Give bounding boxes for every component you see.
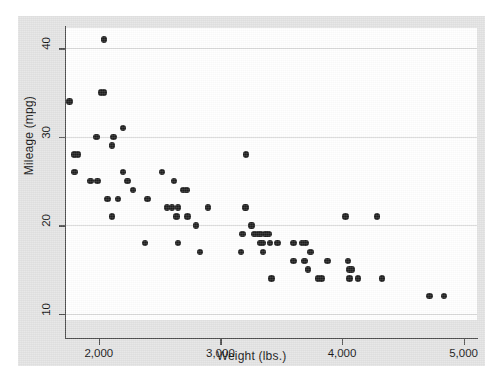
data-point [238, 249, 244, 255]
data-point [175, 204, 181, 210]
data-point [104, 196, 110, 202]
data-point [130, 187, 136, 193]
x-axis-line [65, 338, 478, 339]
data-point [274, 240, 280, 246]
data-point [290, 258, 296, 264]
data-point [87, 178, 93, 184]
data-point [142, 240, 148, 246]
data-point [243, 151, 249, 157]
data-point [260, 240, 266, 246]
data-point [193, 222, 199, 228]
data-point [267, 240, 273, 246]
data-point [125, 178, 131, 184]
data-point [345, 258, 351, 264]
data-point [175, 240, 181, 246]
data-point [249, 222, 255, 228]
data-point [307, 249, 313, 255]
data-point [101, 36, 107, 42]
data-point [71, 169, 77, 175]
data-point [171, 178, 177, 184]
data-point [379, 275, 385, 281]
gridline-y [66, 314, 477, 315]
y-axis-tick [59, 225, 66, 226]
data-point [426, 293, 432, 299]
y-axis-tick-label: 20 [40, 214, 52, 227]
data-point [120, 169, 126, 175]
data-point [342, 213, 348, 219]
x-axis-tick-label: 3,000 [190, 347, 250, 359]
data-point [75, 151, 81, 157]
y-axis-title: Mileage (mpg) [22, 96, 36, 175]
x-axis-tick [220, 338, 221, 345]
data-point [159, 169, 165, 175]
x-axis-tick [99, 338, 100, 345]
y-axis-tick-label: 10 [40, 303, 52, 316]
data-point [260, 249, 266, 255]
y-axis-tick [59, 48, 66, 49]
data-point [183, 187, 189, 193]
data-point [355, 275, 361, 281]
plot-region [66, 28, 477, 320]
gridline-y [66, 48, 477, 49]
screenshot-root: Mileage (mpg) Weight (lbs.) 403020102,00… [0, 0, 503, 386]
x-axis-tick-label: 2,000 [69, 347, 129, 359]
data-point [349, 266, 355, 272]
x-axis-tick-label: 4,000 [312, 347, 372, 359]
x-axis-tick [464, 338, 465, 345]
data-point [257, 231, 263, 237]
data-point [374, 213, 380, 219]
gridline-y [66, 225, 477, 226]
y-axis-tick [59, 137, 66, 138]
data-point [305, 266, 311, 272]
data-point [115, 196, 121, 202]
data-point [205, 204, 211, 210]
data-point [173, 213, 179, 219]
data-point [101, 89, 107, 95]
data-point [441, 293, 447, 299]
data-point [266, 231, 272, 237]
y-axis-tick [59, 314, 66, 315]
data-point [93, 134, 99, 140]
graph-region: Mileage (mpg) Weight (lbs.) 403020102,00… [18, 16, 485, 366]
x-axis-tick-label: 5,000 [434, 347, 494, 359]
gridline-y [66, 137, 477, 138]
data-point [239, 231, 245, 237]
data-point [301, 258, 307, 264]
data-point [197, 249, 203, 255]
data-point [120, 125, 126, 131]
data-point [302, 240, 308, 246]
data-point [144, 196, 150, 202]
data-point [110, 134, 116, 140]
data-point [94, 178, 100, 184]
data-point [324, 258, 330, 264]
data-point [318, 275, 324, 281]
data-point [346, 275, 352, 281]
data-point [109, 142, 115, 148]
y-axis-tick-label: 30 [40, 126, 52, 139]
y-axis-tick-label: 40 [40, 37, 52, 50]
x-axis-tick [342, 338, 343, 345]
data-point [66, 98, 72, 104]
data-point [268, 275, 274, 281]
data-point [290, 240, 296, 246]
data-point [184, 213, 190, 219]
data-point [109, 213, 115, 219]
data-point [243, 204, 249, 210]
